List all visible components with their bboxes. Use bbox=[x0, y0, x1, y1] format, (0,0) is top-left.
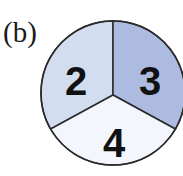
segment-3-value: 3 bbox=[139, 59, 161, 103]
segment-4-value: 4 bbox=[103, 121, 126, 165]
segment-2-value: 2 bbox=[65, 59, 87, 103]
pie-diagram: 2 3 4 bbox=[0, 0, 183, 176]
